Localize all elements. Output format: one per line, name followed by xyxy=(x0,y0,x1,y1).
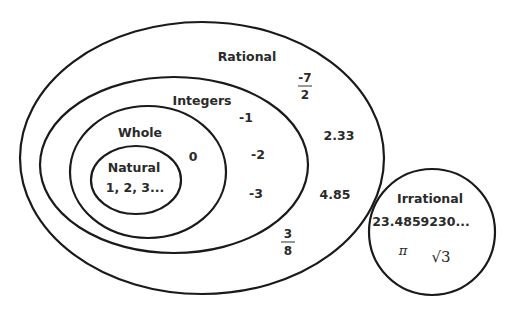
fraction-numerator: -7 xyxy=(298,71,311,85)
irrational-member-pi: π xyxy=(399,243,408,258)
irrational-member-sqrt3: √3 xyxy=(431,248,450,266)
rational-label: Rational xyxy=(218,49,277,64)
rational-member-4-85: 4.85 xyxy=(320,187,351,202)
irrational-label: Irrational xyxy=(397,191,463,206)
integer-member-neg2: -2 xyxy=(251,147,265,162)
fraction-numerator: 3 xyxy=(284,227,292,241)
rational-member-2-33: 2.33 xyxy=(324,128,355,143)
irrational-member-decimal: 23.4859230... xyxy=(372,214,469,229)
natural-label: Natural xyxy=(108,160,161,175)
rational-set-ellipse xyxy=(20,22,384,294)
whole-member-0: 0 xyxy=(189,149,198,164)
fraction-denominator: 8 xyxy=(284,244,292,258)
integer-member-neg1: -1 xyxy=(239,110,253,125)
irrational-set-circle xyxy=(369,169,495,295)
natural-members: 1, 2, 3... xyxy=(106,180,165,195)
rational-fraction-neg7-2: -7 2 xyxy=(298,71,312,102)
integer-member-neg3: -3 xyxy=(249,186,263,201)
fraction-bar xyxy=(298,86,312,87)
integers-label: Integers xyxy=(172,93,231,108)
rational-fraction-3-8: 3 8 xyxy=(281,227,295,258)
fraction-bar xyxy=(281,242,295,243)
number-sets-venn-diagram: Rational Integers Whole Natural 1, 2, 3.… xyxy=(0,0,514,312)
fraction-denominator: 2 xyxy=(301,88,309,102)
whole-label: Whole xyxy=(118,125,162,140)
